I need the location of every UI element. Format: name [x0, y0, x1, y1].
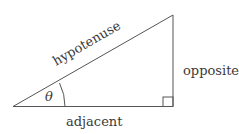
right-angle-marker [163, 97, 173, 107]
hypotenuse-label: hypotenuse [50, 18, 123, 69]
opposite-label: opposite [183, 63, 239, 78]
angle-label: θ [45, 89, 53, 104]
adjacent-label: adjacent [66, 114, 123, 129]
angle-arc [60, 83, 66, 107]
right-triangle-diagram: θ hypotenuse opposite adjacent [0, 0, 239, 134]
triangle [13, 15, 173, 107]
